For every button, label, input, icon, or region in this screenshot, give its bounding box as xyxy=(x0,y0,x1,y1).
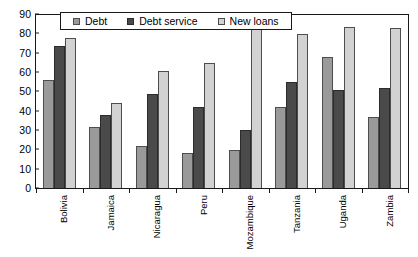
legend-item-debt-service[interactable]: Debt service xyxy=(127,16,197,27)
bar-bolivia-debt-service xyxy=(54,46,65,188)
bar-uganda-new-loans xyxy=(344,27,355,188)
x-axis-label-bolivia: Bolivia xyxy=(59,195,69,223)
bar-peru-debt xyxy=(182,153,193,188)
bar-bolivia-new-loans xyxy=(65,38,76,188)
y-axis-tick-label: 10 xyxy=(19,163,31,174)
bar-mozambique-new-loans xyxy=(251,27,262,188)
bar-nicaragua-debt xyxy=(136,146,147,188)
bar-group-uganda xyxy=(315,15,362,188)
x-axis-label-jamaica: Jamaica xyxy=(106,195,116,230)
y-axis-tick-label: 40 xyxy=(19,105,31,116)
bar-mozambique-debt-service xyxy=(240,130,251,188)
bar-nicaragua-debt-service xyxy=(147,94,158,188)
legend-label: Debt xyxy=(85,16,107,27)
x-axis-label-uganda: Uganda xyxy=(338,195,348,228)
bar-group-jamaica xyxy=(83,15,130,188)
x-axis-category: Zambia xyxy=(362,192,409,256)
x-axis-category: Mozambique xyxy=(222,192,269,256)
legend-swatch-debt xyxy=(73,18,80,25)
x-axis-label-peru: Peru xyxy=(199,195,209,215)
bar-jamaica-new-loans xyxy=(111,103,122,188)
x-axis-category: Bolivia xyxy=(36,192,83,256)
bar-tanzania-debt xyxy=(275,107,286,188)
y-axis-tick-label: 70 xyxy=(19,47,31,58)
x-axis: BoliviaJamaicaNicaraguaPeruMozambiqueTan… xyxy=(36,192,408,256)
y-axis-tick-label: 20 xyxy=(19,144,31,155)
x-axis-category: Tanzania xyxy=(269,192,316,256)
legend-label: Debt service xyxy=(139,16,197,27)
x-axis-label-nicaragua: Nicaragua xyxy=(152,195,162,238)
bar-zambia-new-loans xyxy=(390,28,401,188)
y-axis: 9080706050403020100 xyxy=(0,14,31,189)
y-axis-tick-label: 30 xyxy=(19,125,31,136)
x-axis-category: Uganda xyxy=(315,192,362,256)
legend-item-debt[interactable]: Debt xyxy=(73,16,107,27)
bar-bolivia-debt xyxy=(43,80,54,188)
legend-swatch-new-loans xyxy=(218,18,225,25)
x-axis-category: Peru xyxy=(176,192,223,256)
y-axis-tick-label: 80 xyxy=(19,28,31,39)
bar-group-bolivia xyxy=(36,15,83,188)
legend-label: New loans xyxy=(230,16,279,27)
bars-layer xyxy=(36,15,408,188)
bar-zambia-debt xyxy=(368,117,379,188)
x-axis-category: Jamaica xyxy=(83,192,130,256)
chart-legend: DebtDebt serviceNew loans xyxy=(60,12,292,30)
x-axis-label-zambia: Zambia xyxy=(385,195,395,227)
y-axis-tick-label: 0 xyxy=(25,183,31,194)
legend-swatch-debt-service xyxy=(127,18,134,25)
bar-mozambique-debt xyxy=(229,150,240,188)
bar-nicaragua-new-loans xyxy=(158,71,169,188)
bar-peru-new-loans xyxy=(204,63,215,188)
x-axis-category: Nicaragua xyxy=(129,192,176,256)
bar-uganda-debt-service xyxy=(333,90,344,188)
bar-group-tanzania xyxy=(269,15,316,188)
x-axis-tick-mark xyxy=(408,189,409,193)
bar-peru-debt-service xyxy=(193,107,204,188)
bar-tanzania-new-loans xyxy=(297,34,308,188)
bar-uganda-debt xyxy=(322,57,333,188)
y-axis-tick-label: 50 xyxy=(19,86,31,97)
legend-item-new-loans[interactable]: New loans xyxy=(218,16,279,27)
bar-group-mozambique xyxy=(222,15,269,188)
bar-chart: 9080706050403020100 BoliviaJamaicaNicara… xyxy=(0,0,418,257)
bar-group-nicaragua xyxy=(129,15,176,188)
bar-group-peru xyxy=(176,15,223,188)
x-axis-label-tanzania: Tanzania xyxy=(292,195,302,233)
bar-tanzania-debt-service xyxy=(286,82,297,188)
bar-group-zambia xyxy=(362,15,409,188)
bar-jamaica-debt xyxy=(89,127,100,189)
y-axis-tick-label: 90 xyxy=(19,9,31,20)
y-axis-tick-label: 60 xyxy=(19,67,31,78)
x-axis-label-mozambique: Mozambique xyxy=(245,195,255,249)
bar-jamaica-debt-service xyxy=(100,115,111,188)
bar-zambia-debt-service xyxy=(379,88,390,188)
